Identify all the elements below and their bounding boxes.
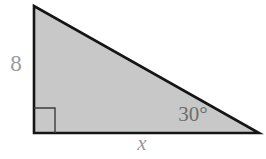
triangle-shape — [34, 6, 259, 133]
angle-label: 30° — [178, 102, 207, 126]
triangle-diagram: 8 30° x — [0, 0, 266, 159]
vertical-side-label: 8 — [10, 51, 22, 76]
triangle-figure-svg: 8 30° x — [0, 0, 266, 159]
base-side-label: x — [136, 131, 147, 155]
